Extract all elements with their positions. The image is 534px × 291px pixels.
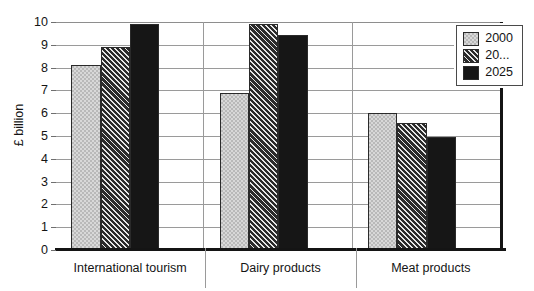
legend-item: 20... xyxy=(463,48,513,63)
y-tick-label-4: 4 xyxy=(0,152,48,166)
y-tick-label-0: 0 xyxy=(0,243,48,257)
legend-item: 2025 xyxy=(463,65,513,80)
bar xyxy=(249,24,278,250)
bar xyxy=(368,113,397,250)
y-tick-label-1: 1 xyxy=(0,220,48,234)
bar xyxy=(101,47,130,250)
y-tick-mark-3 xyxy=(51,182,56,183)
bar xyxy=(278,35,307,250)
y-tick-label-3: 3 xyxy=(0,175,48,189)
y-tick-label-10: 10 xyxy=(0,15,48,29)
legend-label: 20... xyxy=(485,49,509,62)
category-label: International tourism xyxy=(55,251,205,284)
legend-label: 2000 xyxy=(485,32,513,45)
y-tick-label-8: 8 xyxy=(0,61,48,75)
y-tick-label-5: 5 xyxy=(0,129,48,143)
y-tick-label-7: 7 xyxy=(0,83,48,97)
y-tick-label-6: 6 xyxy=(0,106,48,120)
y-tick-mark-4 xyxy=(51,159,56,160)
legend-label: 2025 xyxy=(485,66,513,79)
y-tick-mark-7 xyxy=(51,90,56,91)
category-label: Dairy products xyxy=(205,251,355,284)
solid-swatch xyxy=(463,66,479,80)
y-tick-label-2: 2 xyxy=(0,197,48,211)
y-tick-mark-8 xyxy=(51,68,56,69)
bar xyxy=(427,137,456,250)
y-tick-mark-6 xyxy=(51,113,56,114)
category-label: Meat products xyxy=(356,251,506,284)
y-tick-mark-10 xyxy=(51,22,56,23)
bar xyxy=(71,65,100,250)
y-tick-mark-2 xyxy=(51,204,56,205)
legend-item: 2000 xyxy=(463,31,513,46)
bar-groups xyxy=(55,22,500,250)
y-tick-label-9: 9 xyxy=(0,38,48,52)
bar-group xyxy=(203,22,351,250)
plot-area xyxy=(55,22,503,250)
bar-chart: £ billion 012345678910 200020...2025 Int… xyxy=(0,0,534,291)
category-labels: International tourismDairy productsMeat … xyxy=(55,251,506,284)
y-tick-mark-1 xyxy=(51,227,56,228)
bar xyxy=(130,24,159,250)
bar-group xyxy=(55,22,203,250)
bar xyxy=(397,123,426,250)
bar xyxy=(220,93,249,250)
legend: 200020...2025 xyxy=(456,25,523,86)
checker-swatch xyxy=(463,32,479,46)
y-tick-mark-9 xyxy=(51,45,56,46)
y-tick-mark-5 xyxy=(51,136,56,137)
hatch-swatch xyxy=(463,49,479,63)
